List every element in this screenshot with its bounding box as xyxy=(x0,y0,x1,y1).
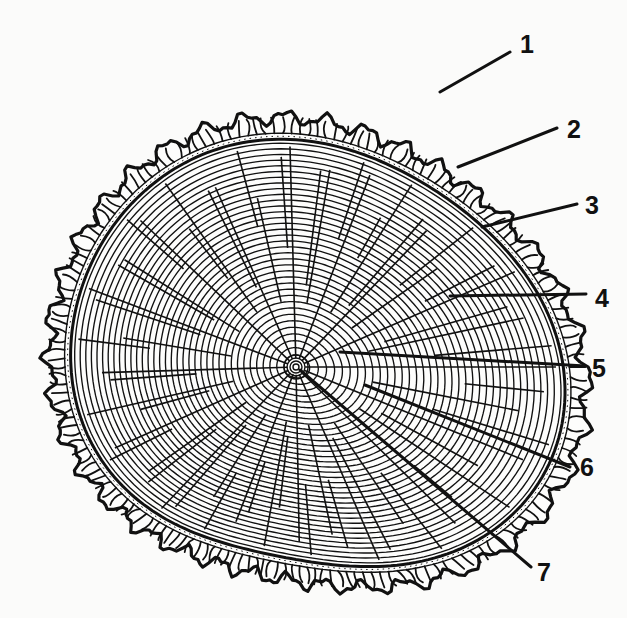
callout-number-2: 2 xyxy=(567,117,581,142)
callout-number-6: 6 xyxy=(580,455,594,480)
leader-line-1 xyxy=(440,52,510,92)
leader-line-2 xyxy=(458,128,557,167)
trunk-cross-section-diagram xyxy=(0,0,627,618)
callout-number-1: 1 xyxy=(520,32,534,57)
leader-line-4 xyxy=(450,294,586,296)
callout-number-7: 7 xyxy=(537,560,551,585)
callout-number-3: 3 xyxy=(585,193,599,218)
callout-number-5: 5 xyxy=(592,356,606,381)
callout-number-4: 4 xyxy=(595,286,609,311)
